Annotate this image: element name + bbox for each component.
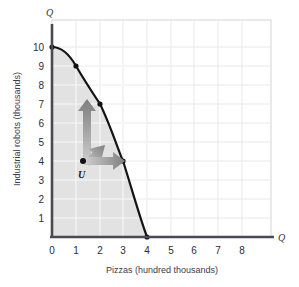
x-tick-1: 1 [73,245,79,256]
x-tick-7: 7 [215,245,221,256]
x-tick-5: 5 [168,245,174,256]
y-axis-title: Industrial robots (thousands) [12,72,22,186]
y-tick-1: 1 [38,213,44,224]
x-tick-3: 3 [120,245,126,256]
x-tick-2: 2 [97,245,103,256]
y-tick-5: 5 [38,137,44,148]
y-tick-7: 7 [38,99,44,110]
y-tick-8: 8 [38,80,44,91]
y-tick-10: 10 [33,42,45,53]
y-axis-end-label: Q [46,7,54,18]
x-tick-8: 8 [239,245,245,256]
ppf-point-2-7 [97,101,102,106]
y-tick-4: 4 [38,156,44,167]
ppf-point-1-9 [73,63,78,68]
point-u-label: U [78,169,86,180]
y-tick-2: 2 [38,194,44,205]
x-tick-4: 4 [144,245,150,256]
x-axis-end-label: Q [278,232,286,243]
x-axis-title: Pizzas (hundred thousands) [106,265,218,275]
x-tick-labels: 0 1 2 3 4 5 6 7 8 [49,245,245,256]
y-tick-3: 3 [38,175,44,186]
point-u-marker [80,158,86,164]
y-tick-9: 9 [38,61,44,72]
ppf-chart: U Q Q 1 2 3 4 5 6 7 8 9 10 0 1 2 3 4 5 [0,0,299,287]
x-tick-6: 6 [191,245,197,256]
x-tick-0: 0 [49,245,55,256]
y-tick-6: 6 [38,118,44,129]
